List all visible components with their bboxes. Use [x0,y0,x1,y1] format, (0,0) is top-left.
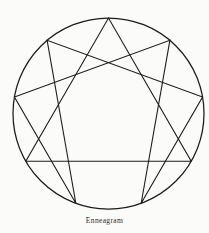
enneagram-diagram [0,0,209,233]
figure-caption: Enneagram [0,216,209,226]
figure-background [0,0,209,233]
enneagram-figure: Enneagram [0,0,209,233]
